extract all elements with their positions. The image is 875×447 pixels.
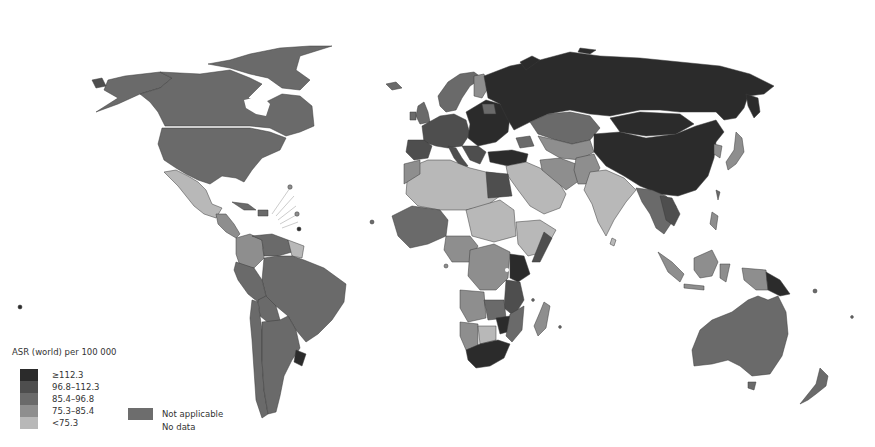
region-belarus — [482, 104, 496, 114]
region-iceland — [386, 82, 402, 90]
legend-swatch-c5 — [20, 369, 38, 381]
region-philippines — [710, 212, 718, 230]
region-borneo — [694, 250, 718, 278]
region-india — [584, 170, 636, 236]
region-iberia — [406, 140, 432, 160]
legend-color-ramp — [20, 369, 38, 429]
caribbean-callout-lines — [272, 188, 298, 228]
region-angola — [460, 290, 486, 322]
region-korea — [714, 144, 722, 158]
legend-label-not-applicable: Not applicable — [162, 408, 223, 420]
region-egypt — [486, 172, 512, 198]
lake-victoria — [505, 268, 509, 272]
region-taiwan — [716, 190, 720, 200]
legend-labels: ≥112.3 96.8–112.3 85.4–96.8 75.3–85.4 <7… — [52, 369, 100, 429]
legend-label-c4: 96.8–112.3 — [52, 381, 100, 393]
pacific-dot — [18, 305, 22, 309]
region-new-zealand — [800, 368, 828, 404]
region-sulawesi — [720, 264, 730, 282]
region-madagascar — [534, 302, 550, 336]
legend-label-c2: 75.3–85.4 — [52, 405, 100, 417]
region-tasmania — [748, 382, 756, 390]
legend-swatch-c3 — [20, 393, 38, 405]
caribbean-island-3 — [297, 227, 301, 231]
region-sumatra — [658, 252, 684, 282]
region-caucasus — [516, 136, 534, 148]
legend-title: ASR (world) per 100 000 — [12, 347, 117, 357]
legend-label-c5: ≥112.3 — [52, 369, 100, 381]
legend-swatch-c1 — [20, 417, 38, 429]
region-papua-new-guinea — [766, 272, 790, 296]
legend-label-c3: 85.4–96.8 — [52, 393, 100, 405]
region-guianas — [288, 240, 304, 258]
region-peru — [234, 262, 266, 302]
region-ireland — [410, 112, 416, 120]
region-arctic-islands — [578, 48, 596, 54]
region-cuba — [232, 202, 256, 210]
region-uk — [416, 102, 430, 124]
island-sao-tome — [444, 264, 448, 268]
caribbean-island-1 — [288, 185, 292, 189]
region-java — [684, 284, 704, 290]
island-mauritius — [559, 326, 562, 329]
map-legend: ASR (world) per 100 000 ≥112.3 96.8–112.… — [10, 347, 260, 442]
legend-label-c1: <75.3 — [52, 417, 100, 429]
region-balkans — [462, 146, 486, 164]
atlantic-island — [370, 220, 374, 224]
region-new-guinea-west — [742, 268, 768, 290]
region-sri-lanka — [610, 238, 616, 246]
region-alaska-island — [92, 78, 106, 88]
region-kamchatka — [746, 94, 760, 118]
caribbean-island-2 — [295, 212, 299, 216]
region-west-africa — [392, 206, 448, 248]
region-argentina — [262, 316, 300, 414]
legend-swatch-c2 — [20, 405, 38, 417]
region-central-america — [216, 214, 240, 238]
region-australia — [692, 296, 788, 376]
legend-label-no-data: No data — [162, 421, 195, 433]
region-central-africa — [468, 244, 510, 290]
pacific-island-1 — [813, 289, 817, 293]
region-hispaniola — [258, 210, 268, 216]
legend-swatch-not-applicable — [128, 408, 153, 420]
island-comoros — [532, 299, 535, 302]
pacific-island-2 — [851, 316, 854, 319]
legend-swatch-c4 — [20, 381, 38, 393]
region-uruguay — [294, 350, 306, 366]
legend-swatch-no-data — [128, 421, 153, 433]
region-kenya — [510, 254, 530, 282]
region-japan — [726, 132, 744, 170]
